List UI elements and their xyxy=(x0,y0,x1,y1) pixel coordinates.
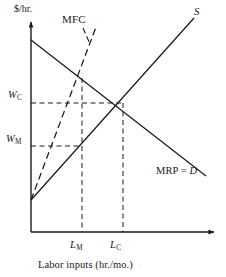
mfc-curve-label: MFC xyxy=(62,14,86,25)
mrp-curve-label: MRP = D xyxy=(156,166,197,177)
wc-subscript: C xyxy=(17,94,22,102)
wage-competitive-tick-label: WC xyxy=(8,90,22,101)
wc-base: W xyxy=(8,89,17,100)
supply-curve-label: S xyxy=(194,6,200,17)
x-axis-caption: Labor inputs (hr./mo.) xyxy=(38,260,133,271)
wm-subscript: M xyxy=(15,138,21,146)
lc-base: L xyxy=(110,239,116,250)
mrp-prefix-text: MRP = xyxy=(156,165,190,176)
mrp-demand-curve xyxy=(31,40,206,176)
monopsony-labor-market-figure: $/hr. MFC S MRP = D WC WM LM LC Labor in… xyxy=(0,0,226,277)
mfc-curve xyxy=(31,27,96,200)
labor-competitive-tick-label: LC xyxy=(110,240,121,251)
lm-subscript: M xyxy=(76,244,82,252)
y-axis-label: $/hr. xyxy=(14,4,32,14)
wage-monopsony-tick-label: WM xyxy=(6,134,21,145)
lm-base: L xyxy=(70,239,76,250)
mfc-label-leader xyxy=(83,28,90,44)
mrp-d-text: D xyxy=(190,165,198,176)
wm-base: W xyxy=(6,133,15,144)
labor-monopsony-tick-label: LM xyxy=(70,240,82,251)
plot-canvas xyxy=(0,0,226,277)
lc-subscript: C xyxy=(116,244,121,252)
